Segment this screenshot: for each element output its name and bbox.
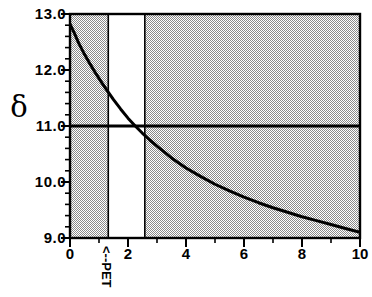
chart-figure: δ 13.012.011.010.09.0 0246810 <--PET [0, 0, 372, 297]
plot-area [0, 0, 372, 297]
